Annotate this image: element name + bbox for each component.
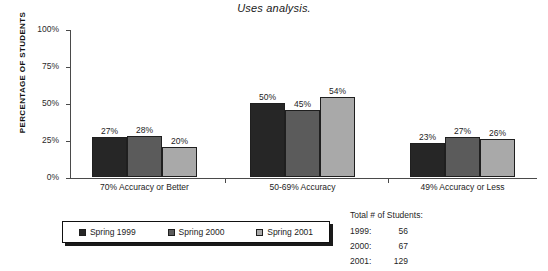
bar: 45%	[285, 110, 320, 177]
x-axis-line	[70, 178, 537, 179]
legend-item[interactable]: Spring 2000	[168, 227, 225, 237]
y-axis-title: PERCENTAGE OF STUDENTS	[18, 0, 27, 153]
totals-count: 56	[382, 224, 408, 239]
bar: 23%	[410, 143, 445, 177]
x-axis-category-label: 50-69% Accuracy	[269, 182, 335, 192]
y-axis-tick: 50%	[66, 104, 70, 105]
bar: 28%	[127, 136, 162, 177]
bar: 54%	[320, 97, 355, 177]
y-axis-tick-label: 75%	[42, 61, 59, 71]
y-axis-line	[70, 30, 71, 179]
category-separator-tick	[388, 178, 389, 183]
chart-title: Uses analysis.	[0, 2, 548, 14]
totals-count: 67	[382, 239, 408, 254]
totals-count: 129	[382, 254, 408, 269]
totals-row: 1999:56	[350, 224, 423, 239]
totals-row: 2001:129	[350, 254, 423, 269]
legend-box: Spring 1999Spring 2000Spring 2001	[62, 221, 330, 243]
y-axis-tick-label: 100%	[37, 24, 59, 34]
chart-screenshot: Uses analysis. PERCENTAGE OF STUDENTS 10…	[0, 0, 548, 271]
totals-row: 2000:67	[350, 239, 423, 254]
y-axis-tick-label: 50%	[42, 98, 59, 108]
bars: 50%45%54%	[250, 29, 355, 177]
totals-block: Total # of Students: 1999:562000:672001:…	[350, 208, 423, 269]
bar-value-label: 27%	[101, 126, 118, 136]
bar: 27%	[445, 137, 480, 177]
plot-area: 100%75%50%25%0% 27%28%20%70% Accuracy or…	[70, 30, 537, 178]
legend-label: Spring 1999	[90, 227, 136, 237]
bar: 20%	[162, 147, 197, 177]
legend-swatch-icon	[256, 229, 263, 236]
bar-value-label: 50%	[259, 92, 276, 102]
bar-group: 27%28%20%70% Accuracy or Better	[92, 29, 197, 177]
bars: 23%27%26%	[410, 29, 515, 177]
bar-value-label: 28%	[136, 125, 153, 135]
category-separator-tick	[225, 178, 226, 183]
bar-value-label: 20%	[171, 136, 188, 146]
y-axis-tick-label: 0%	[47, 172, 59, 182]
totals-year: 2000:	[350, 239, 382, 254]
y-axis-tick-label: 25%	[42, 135, 59, 145]
bar-value-label: 54%	[329, 86, 346, 96]
totals-year: 2001:	[350, 254, 382, 269]
bar-group: 23%27%26%49% Accuracy or Less	[410, 29, 515, 177]
legend: Spring 1999Spring 2000Spring 2001	[62, 221, 330, 243]
y-axis-tick: 0%	[66, 178, 70, 179]
bars: 27%28%20%	[92, 29, 197, 177]
y-axis-tick: 100%	[66, 30, 70, 31]
bar-value-label: 45%	[294, 99, 311, 109]
legend-swatch-icon	[168, 229, 175, 236]
bar-value-label: 23%	[419, 132, 436, 142]
bar-group: 50%45%54%50-69% Accuracy	[250, 29, 355, 177]
legend-item[interactable]: Spring 1999	[79, 227, 136, 237]
bar: 50%	[250, 103, 285, 177]
bar-value-label: 27%	[454, 126, 471, 136]
x-axis-category-label: 49% Accuracy or Less	[420, 182, 504, 192]
bar-value-label: 26%	[489, 128, 506, 138]
bar: 27%	[92, 137, 127, 177]
legend-label: Spring 2001	[267, 227, 313, 237]
totals-rows: 1999:562000:672001:129	[350, 224, 423, 269]
y-axis-tick: 25%	[66, 141, 70, 142]
y-axis-tick: 75%	[66, 67, 70, 68]
totals-heading: Total # of Students:	[350, 208, 423, 223]
legend-item[interactable]: Spring 2001	[256, 227, 313, 237]
x-axis-category-label: 70% Accuracy or Better	[100, 182, 189, 192]
totals-year: 1999:	[350, 224, 382, 239]
bar: 26%	[480, 139, 515, 177]
legend-swatch-icon	[79, 229, 86, 236]
legend-label: Spring 2000	[179, 227, 225, 237]
